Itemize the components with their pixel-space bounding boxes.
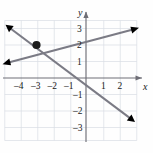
- x-axis-arrow: [136, 75, 143, 80]
- line-rising-arrow-left: [3, 59, 12, 66]
- y-tick-label-neg3: –3: [73, 124, 83, 134]
- axis-arrowheads: [83, 12, 142, 81]
- x-tick-label-2: 2: [118, 82, 123, 92]
- x-axis-label: x: [143, 82, 147, 92]
- y-tick-label-3: 3: [77, 25, 82, 35]
- graph-figure: –4 –3 –2 –1 1 2 3 2 1 –1 –2 –3 y x: [0, 0, 153, 153]
- x-tick-label-1: 1: [101, 82, 106, 92]
- y-tick-label-neg1: –1: [73, 91, 83, 101]
- line-falling: [6, 25, 136, 122]
- y-axis-label: y: [78, 8, 82, 18]
- y-tick-label-2: 2: [77, 41, 82, 51]
- x-tick-label-neg2: –2: [48, 82, 58, 92]
- x-tick-label-neg4: –4: [14, 82, 24, 92]
- line-rising-arrow-right: [130, 27, 139, 34]
- x-tick-label-neg3: –3: [31, 82, 41, 92]
- intersection-point: [32, 41, 40, 49]
- y-axis-arrow: [83, 12, 88, 19]
- y-tick-label-1: 1: [77, 58, 82, 68]
- y-tick-label-neg2: –2: [73, 107, 83, 117]
